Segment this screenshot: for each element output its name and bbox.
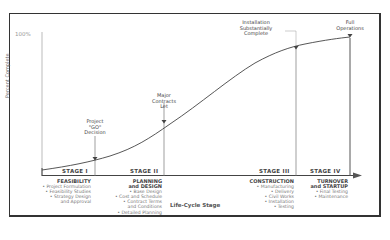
completion-curve [42,37,350,170]
turnover-column: TURNOVER and STARTUP • Final Testing • M… [310,179,348,199]
construction-item: • Testing [250,204,294,209]
construction-column: CONSTRUCTION • Manufacturing • Delivery … [250,179,294,210]
marker-installation-icon [294,46,299,50]
planning-column: PLANNING and DESIGN • Base Design • Cost… [115,179,162,215]
x-axis-label: Life-Cycle Stage [170,202,220,208]
stage-3-label: STAGE III [259,168,290,174]
feasibility-column: FEASIBILITY • Project Formulation • Feas… [42,179,91,204]
milestone-installation-line3: Complete [228,31,284,37]
y-axis-label: Percent Complete [4,54,10,99]
milestone-contracts-line3: Let [144,104,184,110]
milestone-contracts-label: Major Contracts Let [144,93,184,110]
milestone-full-line2: Operations [330,26,370,32]
milestone-installation-label: Installation Substantially Complete [228,20,284,37]
stage-2-label: STAGE II [130,168,158,174]
marker-contracts-icon [162,120,167,124]
milestone-full-label: Full Operations [330,20,370,31]
feasibility-item: and Approval [42,199,91,204]
stage-1-label: STAGE I [62,168,88,174]
milestone-go-label: Project "GO" Decision [78,119,112,136]
planning-item: • Detailed Planning [115,210,162,215]
y-tick-100: 100% [15,31,31,37]
milestone-go-line3: Decision [78,130,112,136]
x-axis-arrow-icon [353,173,362,179]
turnover-item: • Maintenance [310,194,348,199]
stage-4-label: STAGE IV [310,168,340,174]
